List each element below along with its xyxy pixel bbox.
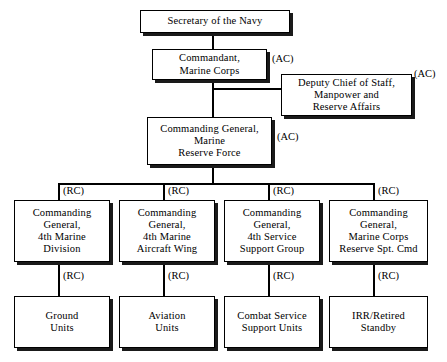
node-label: Combat Service Support Units [234, 310, 309, 334]
connector-bus-drop-fssg [268, 183, 270, 200]
node-label: Commandant, Marine Corps [176, 52, 243, 76]
tag-ac-deputy: (AC) [414, 68, 436, 79]
connector-trunk-deputy-chief [212, 88, 284, 90]
node-cg-4th-marine-aircraft-wing[interactable]: Commanding General, 4th Marine Aircraft … [119, 200, 215, 262]
node-irr-retired-standby[interactable]: IRR/Retired Standby [329, 296, 428, 348]
node-secretary-of-the-navy[interactable]: Secretary of the Navy [140, 10, 290, 33]
node-commandant-marine-corps[interactable]: Commandant, Marine Corps [152, 49, 267, 80]
node-label: Aviation Units [145, 310, 188, 334]
tag-rc-4th-aircraft-wing: (RC) [168, 185, 189, 196]
node-label: IRR/Retired Standby [349, 310, 408, 334]
node-deputy-chief-of-staff[interactable]: Deputy Chief of Staff, Manpower and Rese… [281, 74, 412, 116]
node-combat-service-support-units[interactable]: Combat Service Support Units [224, 296, 320, 348]
tag-rc-4th-division: (RC) [63, 185, 84, 196]
tag-rc-css-units: (RC) [273, 270, 294, 281]
node-label: Commanding General, 4th Service Support … [237, 207, 308, 256]
tag-rc-4th-support-group: (RC) [273, 185, 294, 196]
node-label: Ground Units [43, 310, 82, 334]
node-cg-marine-corps-reserve-spt-cmd[interactable]: Commanding General, Marine Corps Reserve… [329, 200, 428, 262]
node-label: Commanding General, 4th Marine Division [30, 207, 95, 256]
connector-commandant-cg-reserve [212, 80, 214, 117]
node-cg-4th-marine-division[interactable]: Commanding General, 4th Marine Division [14, 200, 110, 262]
connector-div-ground [58, 262, 60, 296]
connector-fssg-css [268, 262, 270, 296]
connector-bus-drop-div [58, 183, 60, 200]
connector-bus-drop-maw [163, 183, 165, 200]
connector-mcrsc-irr [373, 262, 375, 296]
node-label: Commanding General, Marine Reserve Force [157, 123, 262, 160]
org-chart: Secretary of the Navy Commandant, Marine… [0, 0, 447, 362]
node-ground-units[interactable]: Ground Units [14, 296, 110, 348]
tag-rc-ground-units: (RC) [63, 270, 84, 281]
tag-rc-aviation-units: (RC) [168, 270, 189, 281]
node-label: Commanding General, 4th Marine Aircraft … [134, 207, 201, 256]
node-aviation-units[interactable]: Aviation Units [119, 296, 215, 348]
node-label: Commanding General, Marine Corps Reserve… [336, 207, 421, 256]
tag-ac-commandant: (AC) [272, 53, 294, 64]
tag-rc-reserve-spt-cmd: (RC) [378, 185, 399, 196]
node-cg-4th-service-support-group[interactable]: Commanding General, 4th Service Support … [224, 200, 320, 262]
tag-ac-cg-reserve: (AC) [277, 131, 299, 142]
connector-bus-rc [58, 183, 374, 185]
node-label: Deputy Chief of Staff, Manpower and Rese… [295, 77, 398, 114]
connector-maw-aviation [163, 262, 165, 296]
node-cg-marine-reserve-force[interactable]: Commanding General, Marine Reserve Force [147, 117, 272, 165]
node-label: Secretary of the Navy [165, 15, 266, 27]
connector-bus-drop-mcrsc [373, 183, 375, 200]
tag-rc-irr-standby: (RC) [378, 270, 399, 281]
